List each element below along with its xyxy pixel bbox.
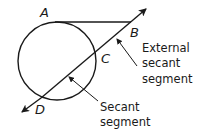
point-label-b: B [130, 25, 139, 40]
secant-label-line1: Secant [100, 100, 140, 114]
secant-pointer [69, 77, 98, 101]
secant-label-line2: segment [100, 115, 151, 129]
diagram-canvas: A B C D External secant segment Secant s… [0, 0, 208, 135]
point-label-d: D [35, 102, 45, 117]
geometry-figure: A B C D External secant segment Secant s… [0, 0, 208, 135]
external-secant-label-line1: External [142, 41, 190, 55]
external-secant-label-line2: secant [142, 56, 181, 70]
point-label-a: A [39, 5, 49, 20]
point-label-c: C [101, 51, 111, 66]
external-secant-pointer [117, 39, 137, 66]
external-secant-label-line3: segment [142, 72, 193, 86]
